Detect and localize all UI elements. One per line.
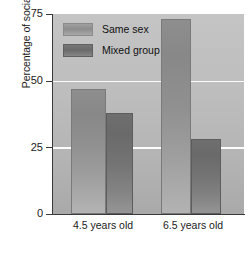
bar-same-sex-4-5-years <box>71 89 106 214</box>
bar-chart-figure: Percentage of social playtime 75 50 25 0… <box>0 0 250 261</box>
plot-area: Same sex Mixed group <box>52 14 244 214</box>
legend-swatch-mixed-group <box>63 44 93 57</box>
x-axis-label-group-0: 4.5 years old <box>58 219 148 231</box>
legend-item-same-sex: Same sex <box>63 22 160 36</box>
bar-same-sex-6-5-years <box>161 19 191 214</box>
legend-item-mixed-group: Mixed group <box>63 43 160 57</box>
legend-label-same-sex: Same sex <box>102 24 149 35</box>
legend-label-mixed-group: Mixed group <box>102 45 160 56</box>
bar-mixed-group-6-5-years <box>191 139 221 214</box>
chart-legend: Same sex Mixed group <box>63 22 160 64</box>
y-tick-label-25: 25 <box>3 142 43 153</box>
gridline-50 <box>53 81 244 83</box>
bar-mixed-group-4-5-years <box>106 113 133 214</box>
y-tick-label-0: 0 <box>3 208 43 219</box>
x-axis-label-group-1: 6.5 years old <box>148 219 238 231</box>
legend-swatch-same-sex <box>63 23 93 36</box>
y-tick-label-75: 75 <box>3 8 43 19</box>
y-tick-label-50: 50 <box>3 75 43 86</box>
